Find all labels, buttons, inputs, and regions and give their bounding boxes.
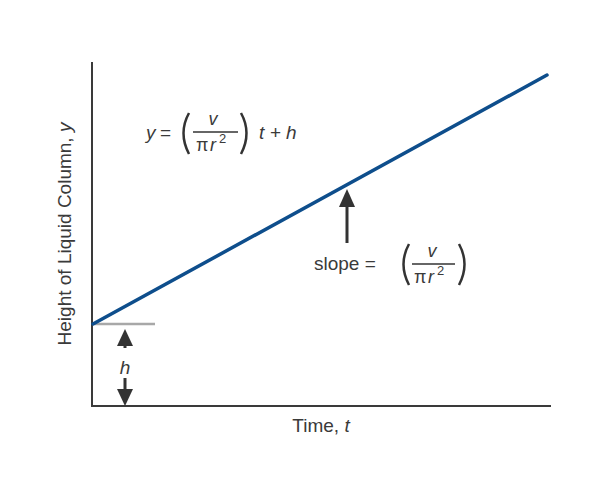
svg-text:2: 2 (437, 263, 444, 278)
svg-text:=: = (160, 122, 171, 143)
svg-text:r: r (428, 267, 435, 287)
svg-text:t: t (259, 122, 265, 143)
svg-text:y: y (144, 122, 157, 143)
svg-text:h: h (286, 122, 297, 143)
svg-text:r: r (210, 135, 217, 155)
svg-text:slope =: slope = (314, 253, 376, 274)
slope-arrow-icon (339, 189, 355, 243)
svg-text:π: π (414, 267, 426, 287)
x-axis-label: Time, t (292, 415, 350, 436)
diagram-canvas: h y = v π r 2 t + h slope = v π r 2 Time… (0, 0, 597, 479)
slope-annotation: slope = v π r 2 (314, 241, 465, 287)
svg-text:2: 2 (219, 131, 226, 146)
svg-text:+: + (270, 122, 281, 143)
h-label: h (120, 357, 131, 378)
equation: y = v π r 2 t + h (144, 109, 297, 155)
svg-text:π: π (196, 135, 208, 155)
y-axis-label: Height of Liquid Column, y (54, 121, 75, 345)
svg-text:v: v (209, 109, 219, 129)
svg-text:v: v (428, 241, 438, 261)
data-line (93, 75, 547, 324)
